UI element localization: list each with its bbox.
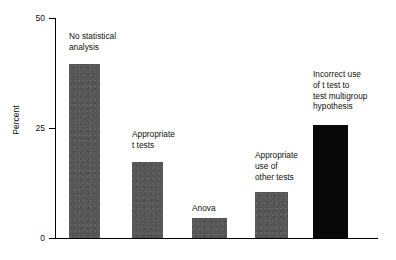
bar-label-incorrect-use-of-t-test: Incorrect use of t test to test multigro… (313, 69, 391, 112)
bar-appropriate-use-of-other-tests (255, 192, 288, 238)
bar-anova (192, 218, 227, 238)
bar-label-appropriate-t-tests: Appropriate t tests (132, 129, 202, 151)
bar-label-appropriate-use-of-other-tests: Appropriate use of other tests (255, 150, 323, 182)
bar-chart-figure: 50 25 0 Percent No statistical analysis … (0, 0, 396, 260)
bar-label-anova: Anova (192, 203, 242, 214)
bar-no-statistical-analysis (69, 64, 100, 238)
bar-appropriate-t-tests (132, 162, 163, 238)
plot-area: No statistical analysis Appropriate t te… (0, 0, 396, 260)
bar-label-no-statistical-analysis: No statistical analysis (69, 31, 139, 53)
